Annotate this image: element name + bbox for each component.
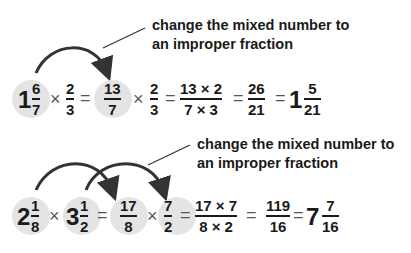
mixed-fraction: 12 bbox=[80, 197, 88, 235]
improper-fraction: 178 bbox=[120, 197, 137, 235]
answer-whole: 1 bbox=[289, 88, 302, 112]
note-line: change the mixed number to bbox=[152, 16, 349, 35]
note-line: an improper fraction bbox=[152, 35, 349, 54]
times-sign: × bbox=[50, 90, 61, 108]
mixed-fraction: 18 bbox=[31, 197, 39, 235]
note-line: change the mixed number to bbox=[197, 135, 394, 154]
times-sign: × bbox=[49, 207, 60, 225]
improper-fraction: 137 bbox=[104, 80, 121, 118]
result-fraction: 2621 bbox=[248, 80, 265, 118]
answer-fraction: 521 bbox=[304, 80, 321, 118]
result-fraction: 11916 bbox=[266, 197, 290, 235]
equals-sign: = bbox=[246, 206, 257, 224]
times-sign: × bbox=[133, 90, 144, 108]
fraction: 23 bbox=[150, 80, 158, 118]
mixed-whole: 3 bbox=[66, 205, 79, 229]
improper-fraction: 72 bbox=[164, 197, 172, 235]
equals-sign: = bbox=[97, 206, 108, 224]
product-fraction: 17 × 78 × 2 bbox=[195, 197, 237, 235]
equals-sign: = bbox=[180, 206, 191, 224]
mixed-whole: 1 bbox=[18, 88, 31, 112]
times-sign: × bbox=[147, 207, 158, 225]
equals-sign: = bbox=[165, 89, 176, 107]
mixed-whole: 2 bbox=[17, 205, 30, 229]
note-line: an improper fraction bbox=[197, 154, 394, 173]
fraction: 23 bbox=[66, 80, 74, 118]
answer-whole: 7 bbox=[306, 205, 319, 229]
equals-sign: = bbox=[275, 89, 286, 107]
conversion-arrow bbox=[36, 164, 112, 190]
note-example1: change the mixed number to an improper f… bbox=[152, 16, 349, 54]
product-fraction: 13 × 27 × 3 bbox=[180, 80, 222, 118]
equals-sign: = bbox=[80, 89, 91, 107]
mixed-fraction: 67 bbox=[32, 80, 40, 118]
equals-sign: = bbox=[233, 89, 244, 107]
leader-line bbox=[103, 28, 145, 48]
equals-sign: = bbox=[293, 206, 304, 224]
leader-line bbox=[148, 145, 190, 165]
conversion-arrow bbox=[36, 48, 106, 73]
conversion-arrow bbox=[86, 164, 163, 190]
answer-fraction: 716 bbox=[322, 197, 339, 235]
note-example2: change the mixed number to an improper f… bbox=[197, 135, 394, 173]
